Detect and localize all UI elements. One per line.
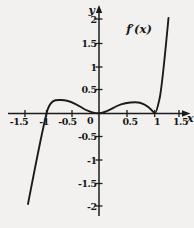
y-tick-label: -1 — [87, 155, 97, 166]
x-tick-label: -0.5 — [58, 116, 76, 127]
y-tick-label: 0.5 — [81, 84, 96, 95]
y-tick-label: 1 — [90, 62, 96, 73]
x-tick-label: 1 — [154, 116, 160, 127]
y-tick-label: 1.5 — [81, 38, 96, 49]
curve-label: f′(x) — [125, 22, 152, 36]
y-axis-arrow-icon — [96, 5, 102, 13]
x-tick-label: -1 — [39, 116, 49, 127]
y-tick-label: -2 — [87, 201, 97, 212]
x-tick-label: 0.5 — [122, 116, 137, 127]
origin-label: 0 — [87, 115, 94, 126]
y-tick-label: -0.5 — [78, 131, 96, 142]
derivative-function-graph: -1.5 -1 -0.5 0 0.5 1 1.5 2 1.5 1 0.5 -0.… — [0, 0, 194, 228]
x-axis-label: x — [186, 112, 194, 125]
x-tick-label: 1.5 — [173, 116, 188, 127]
y-tick-label: -1.5 — [78, 178, 96, 189]
x-tick-label: -1.5 — [10, 116, 28, 127]
plot-canvas: -1.5 -1 -0.5 0 0.5 1 1.5 2 1.5 1 0.5 -0.… — [0, 0, 194, 228]
